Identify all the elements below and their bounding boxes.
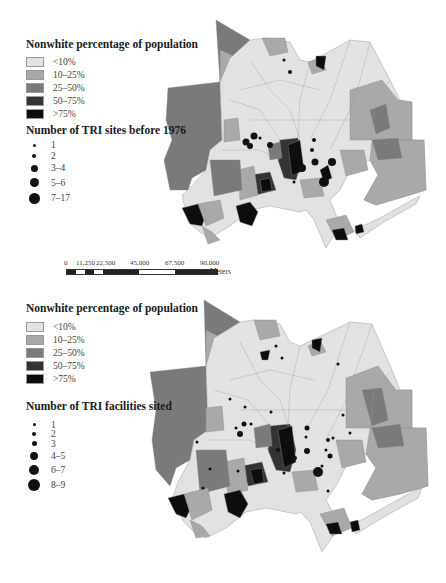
legend-item: 5–6 [26, 175, 186, 190]
map-panel-tri-facilities-sited: Nonwhite percentage of population <10% 1… [0, 290, 446, 583]
dot-symbol [32, 154, 36, 158]
legend-item: 8–9 [26, 477, 172, 493]
legend-item: >75% [26, 107, 198, 120]
legend-item: 25–50% [26, 81, 198, 94]
choropleth-legend-bottom: Nonwhite percentage of population <10% 1… [26, 302, 198, 385]
legend-item: 1 [26, 420, 172, 429]
swatch-gt75 [26, 374, 44, 384]
swatch-10-25 [26, 335, 44, 345]
swatch-10-25 [26, 70, 44, 80]
legend-title: Nonwhite percentage of population [26, 302, 198, 314]
legend-title: Number of TRI facilities sited [26, 400, 172, 412]
legend-item: 2 [26, 429, 172, 438]
choropleth-legend-top: Nonwhite percentage of population <10% 1… [26, 38, 198, 120]
swatch-50-75 [26, 361, 44, 371]
scale-bar: 0 11,250 22,500 45,000 67,500 90,000 Met… [62, 259, 322, 279]
swatch-lt10 [26, 322, 44, 332]
legend-item: >75% [26, 372, 198, 385]
legend-item: 50–75% [26, 94, 198, 107]
swatch-50-75 [26, 96, 44, 106]
legend-item: 2 [26, 150, 186, 161]
dot-symbol [30, 178, 39, 187]
legend-item: 25–50% [26, 346, 198, 359]
legend-item: 4–5 [26, 449, 172, 462]
swatch-25-50 [26, 348, 44, 358]
legend-item: <10% [26, 320, 198, 333]
scale-bar-segments [66, 269, 218, 275]
legend-item: 10–25% [26, 333, 198, 346]
dot-symbol [32, 432, 36, 436]
swatch-lt10 [26, 57, 44, 67]
symbol-legend-top: Number of TRI sites before 1976 1 2 3–4 … [26, 124, 186, 206]
map-panel-tri-before-1976: Nonwhite percentage of population <10% 1… [0, 0, 446, 290]
dot-symbol [33, 144, 36, 147]
legend-item: 1 [26, 140, 186, 150]
swatch-gt75 [26, 109, 44, 119]
swatch-25-50 [26, 83, 44, 93]
legend-item: 50–75% [26, 359, 198, 372]
legend-item: <10% [26, 55, 198, 68]
dot-symbol [29, 465, 39, 475]
dot-symbol [33, 423, 36, 426]
legend-item: 3–4 [26, 161, 186, 175]
dot-symbol [32, 441, 37, 446]
dot-symbol [29, 193, 40, 204]
dot-symbol [31, 165, 38, 172]
legend-item: 7–17 [26, 190, 186, 206]
legend-item: 3 [26, 438, 172, 449]
legend-title: Number of TRI sites before 1976 [26, 124, 186, 136]
legend-item: 6–7 [26, 462, 172, 477]
legend-item: 10–25% [26, 68, 198, 81]
symbol-legend-bottom: Number of TRI facilities sited 1 2 3 4–5… [26, 400, 172, 493]
dot-symbol [28, 479, 40, 491]
legend-title: Nonwhite percentage of population [26, 38, 198, 50]
dot-symbol [30, 452, 38, 460]
